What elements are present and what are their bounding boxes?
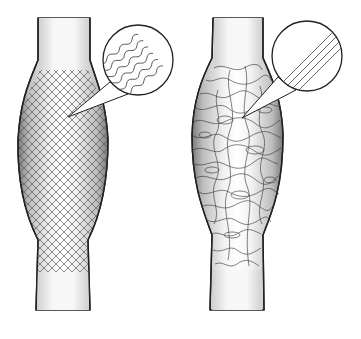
right-bottom-neck [212,270,262,310]
diagram-canvas [0,0,361,339]
right-top-neck [214,18,262,68]
left-graft [18,18,173,310]
left-top-neck [39,18,89,70]
right-graft [192,18,352,310]
left-bottom-neck [37,270,89,310]
